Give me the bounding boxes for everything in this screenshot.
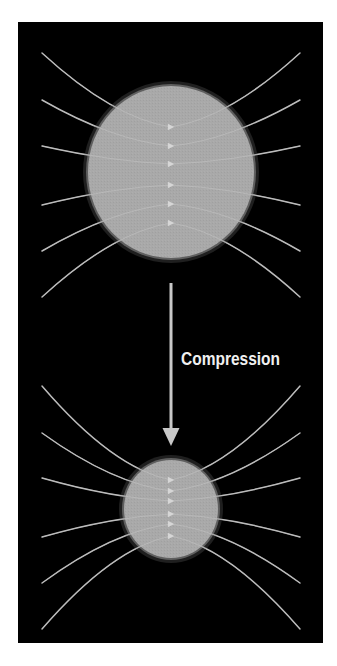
bottom-sphere [119,455,223,563]
top-sphere-texture [88,86,254,258]
magnetic-field-compression-diagram: Compression [0,0,337,666]
compression-label: Compression [181,348,280,369]
top-sphere [83,81,259,263]
bottom-sphere-texture [124,460,218,558]
